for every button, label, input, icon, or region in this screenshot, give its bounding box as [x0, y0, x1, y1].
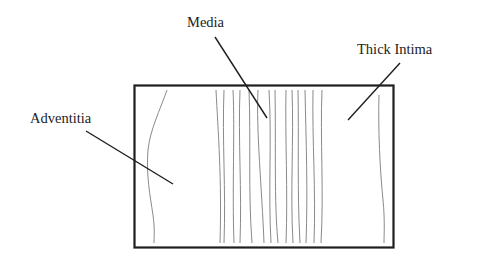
adventitia-label: Adventitia — [30, 111, 91, 126]
thick-intima-label: Thick Intima — [357, 42, 432, 57]
intima-leader-line — [348, 63, 400, 120]
media-fibers — [216, 90, 322, 243]
media-leader-line — [215, 37, 267, 118]
adventitia-leader-line — [86, 131, 173, 184]
adventitia-fiber — [147, 90, 167, 243]
intima-fiber — [379, 95, 385, 243]
tissue-section-box — [135, 86, 394, 248]
media-label: Media — [187, 15, 224, 30]
